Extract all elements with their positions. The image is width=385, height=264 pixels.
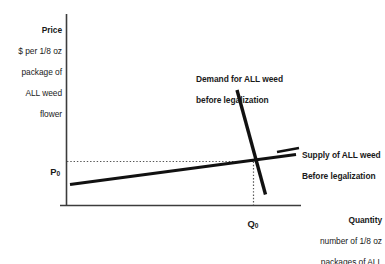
x-axis-title-main: Quantity bbox=[276, 215, 382, 226]
supply-demand-chart: Price $ per 1/8 oz package of ALL weed f… bbox=[0, 0, 385, 264]
y-axis-subtitle-line-1: $ per 1/8 oz bbox=[0, 46, 62, 57]
x-axis-subtitle-line-1: number of 1/8 oz bbox=[276, 236, 382, 247]
y-axis-title-main: Price bbox=[0, 25, 62, 36]
x-axis-title: Quantity number of 1/8 oz packages of AL… bbox=[276, 204, 382, 264]
supply-curve-label: Supply of ALL weed Before legalization bbox=[302, 139, 385, 181]
demand-curve-label: Demand for ALL weed before legalization bbox=[196, 63, 318, 105]
price-tick-subscript: 0 bbox=[56, 170, 60, 177]
supply-label-line-2: Before legalization bbox=[302, 171, 376, 181]
demand-curve bbox=[237, 90, 266, 195]
supply-label-leader-line bbox=[277, 148, 299, 152]
y-axis-subtitle-line-2: package of bbox=[0, 67, 62, 78]
equilibrium-price-tick-label: P0 bbox=[32, 156, 60, 178]
demand-label-line-1: Demand for ALL weed bbox=[196, 74, 283, 84]
x-axis-subtitle-line-2: packages of ALL bbox=[276, 257, 382, 264]
demand-label-line-2: before legalization bbox=[196, 95, 269, 105]
y-axis-title: Price $ per 1/8 oz package of ALL weed f… bbox=[0, 14, 62, 131]
y-axis-subtitle-line-4: flower bbox=[0, 109, 62, 120]
equilibrium-quantity-tick-label: Q0 bbox=[238, 208, 268, 230]
quantity-tick-subscript: 0 bbox=[255, 222, 259, 229]
y-axis-subtitle-line-3: ALL weed bbox=[0, 88, 62, 99]
quantity-tick-base: Q bbox=[248, 218, 255, 229]
supply-label-line-1: Supply of ALL weed bbox=[302, 150, 381, 160]
